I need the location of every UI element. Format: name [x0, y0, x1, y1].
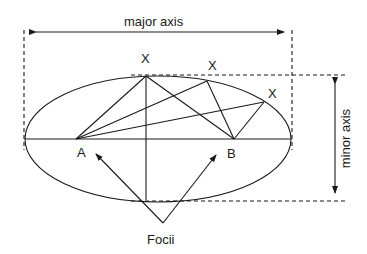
ellipse-diagram: [0, 0, 367, 254]
line-a-x3: [76, 102, 264, 139]
line-x1-b: [146, 76, 234, 139]
major-axis-label: major axis: [124, 15, 183, 28]
point-x1-label: X: [141, 52, 150, 65]
point-x2-label: X: [208, 59, 217, 72]
minor-axis-label: minor axis: [339, 109, 352, 168]
line-a-x2: [76, 81, 207, 139]
focus-a-label: A: [77, 146, 86, 159]
line-x2-b: [207, 81, 234, 139]
focus-b-label: B: [227, 147, 236, 160]
foci-label: Focii: [147, 233, 174, 246]
foci-arrow-to-b: [163, 155, 216, 223]
point-x3-label: X: [268, 87, 277, 100]
foci-arrow-to-a: [96, 154, 163, 223]
